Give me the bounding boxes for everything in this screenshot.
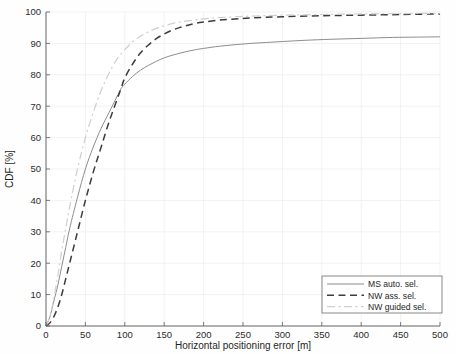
x-tick-label: 250 [235, 329, 251, 340]
y-tick-label: 50 [30, 163, 41, 174]
x-tick-label: 500 [432, 329, 448, 340]
x-tick-label: 400 [353, 329, 369, 340]
figure-canvas: 050100150200250300350400450500 010203040… [0, 0, 456, 354]
y-tick-label: 90 [30, 38, 41, 49]
x-tick-label: 300 [274, 329, 290, 340]
legend: MS auto. sel.NW ass. sel.NW guided sel. [322, 276, 442, 313]
x-tick-label: 200 [196, 329, 212, 340]
y-tick-label: 40 [30, 195, 41, 206]
y-axis-title: CDF [%] [4, 150, 15, 188]
x-tick-label: 350 [314, 329, 330, 340]
y-tick-label: 80 [30, 69, 41, 80]
cdf-chart: 050100150200250300350400450500 010203040… [0, 0, 456, 354]
x-tick-label: 0 [43, 329, 48, 340]
legend-label: NW ass. sel. [368, 291, 416, 301]
y-tick-label: 0 [36, 320, 41, 331]
x-tick-label: 150 [156, 329, 172, 340]
y-tick-label: 30 [30, 226, 41, 237]
x-axis-title: Horizontal positioning error [m] [175, 340, 311, 351]
x-tick-label: 450 [393, 329, 409, 340]
y-tick-label: 20 [30, 258, 41, 269]
y-tick-label: 60 [30, 132, 41, 143]
legend-label: NW guided sel. [368, 302, 426, 312]
y-tick-label: 10 [30, 289, 41, 300]
legend-label: MS auto. sel. [368, 279, 418, 289]
x-tick-label: 50 [80, 329, 91, 340]
y-tick-label: 70 [30, 101, 41, 112]
x-tick-label: 100 [117, 329, 133, 340]
y-tick-label: 100 [25, 6, 41, 17]
